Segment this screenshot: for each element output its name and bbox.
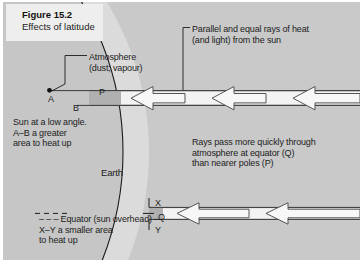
label-sun-low-angle: Sun at a low angle. A–B a greater area t… — [13, 117, 87, 149]
figure-container: Figure 15.2 Effects of latitude Atmosphe… — [0, 0, 362, 269]
figure-number: Figure 15.2 — [22, 9, 72, 20]
point-label-b: B — [73, 103, 79, 113]
label-atmosphere: Atmosphere (dust; vapour) — [89, 52, 142, 73]
equatorial-arrow-1 — [177, 203, 249, 224]
point-a-dot — [47, 88, 52, 93]
equatorial-beam-group — [149, 203, 360, 224]
diagram-plate: Figure 15.2 Effects of latitude Atmosphe… — [3, 2, 360, 260]
point-label-a: A — [48, 94, 54, 104]
equatorial-arrow-2 — [266, 203, 360, 224]
label-rays-description: Rays pass more quickly through atmospher… — [192, 137, 316, 169]
label-earth: Earth — [101, 168, 123, 179]
point-label-q: Q — [158, 212, 165, 222]
label-equator: – – – Equator (sun overhead) – X–Y a sma… — [39, 214, 159, 246]
rays-leader-line — [183, 28, 190, 91]
figure-caption: Effects of latitude — [22, 21, 95, 32]
point-label-x: X — [155, 198, 161, 208]
point-label-y: Y — [155, 225, 161, 235]
point-label-p: P — [99, 87, 105, 97]
label-rays-source: Parallel and equal rays of heat (and lig… — [192, 24, 309, 45]
